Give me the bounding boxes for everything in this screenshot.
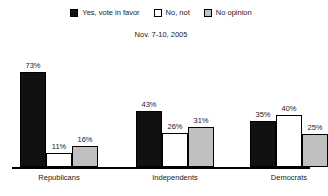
bar-item[interactable]: 73% bbox=[20, 46, 46, 167]
x-axis-category-label: Independents bbox=[136, 173, 214, 183]
bar-item[interactable]: 26% bbox=[162, 46, 188, 167]
bar-value-label: 26% bbox=[162, 122, 188, 131]
x-axis-category-label: Democrats bbox=[250, 173, 328, 183]
plot-area: 73%11%16%Republicans43%26%31%Independent… bbox=[0, 44, 322, 169]
bar-value-label: 16% bbox=[72, 135, 98, 144]
bar-item[interactable]: 31% bbox=[188, 46, 214, 167]
x-axis-category-label: Republicans bbox=[20, 173, 98, 183]
chart-legend: Yes, vote in favorNo, notNo opinion bbox=[0, 8, 322, 17]
bar-value-label: 35% bbox=[250, 110, 276, 119]
bar-item[interactable]: 40% bbox=[276, 46, 302, 167]
bar-rect[interactable] bbox=[188, 127, 214, 167]
bar-group-bars: 73%11%16% bbox=[20, 46, 98, 167]
legend-swatch-icon-no_opinion bbox=[204, 9, 212, 17]
bar-value-label: 11% bbox=[46, 142, 72, 151]
bar-value-label: 43% bbox=[136, 100, 162, 109]
bar-item[interactable]: 16% bbox=[72, 46, 98, 167]
bar-rect[interactable] bbox=[136, 111, 162, 167]
bar-rect[interactable] bbox=[302, 134, 328, 167]
bar-rect[interactable] bbox=[250, 121, 276, 167]
bar-group-bars: 35%40%25% bbox=[250, 46, 328, 167]
bar-rect[interactable] bbox=[162, 133, 188, 167]
bar-group-bars: 43%26%31% bbox=[136, 46, 214, 167]
bar-item[interactable]: 43% bbox=[136, 46, 162, 167]
bar-value-label: 40% bbox=[276, 104, 302, 113]
legend-label-no: No, not bbox=[166, 8, 190, 17]
bar-item[interactable]: 25% bbox=[302, 46, 328, 167]
legend-swatch-icon-no bbox=[154, 9, 162, 17]
legend-label-yes: Yes, vote in favor bbox=[82, 8, 139, 17]
legend-swatch-icon-yes bbox=[70, 9, 78, 17]
bar-rect[interactable] bbox=[72, 146, 98, 167]
bar-rect[interactable] bbox=[276, 115, 302, 167]
legend-label-no_opinion: No opinion bbox=[216, 8, 252, 17]
bar-rect[interactable] bbox=[20, 72, 46, 167]
legend-item-no[interactable]: No, not bbox=[154, 8, 190, 17]
bar-item[interactable]: 11% bbox=[46, 46, 72, 167]
legend-item-yes[interactable]: Yes, vote in favor bbox=[70, 8, 139, 17]
chart-subtitle-date: Nov. 7-10, 2005 bbox=[0, 30, 322, 40]
legend-item-no_opinion[interactable]: No opinion bbox=[204, 8, 252, 17]
bar-value-label: 31% bbox=[188, 116, 214, 125]
bar-value-label: 73% bbox=[20, 61, 46, 70]
bar-rect[interactable] bbox=[46, 153, 72, 167]
bar-item[interactable]: 35% bbox=[250, 46, 276, 167]
x-axis-baseline bbox=[12, 167, 310, 169]
bar-value-label: 25% bbox=[302, 123, 328, 132]
